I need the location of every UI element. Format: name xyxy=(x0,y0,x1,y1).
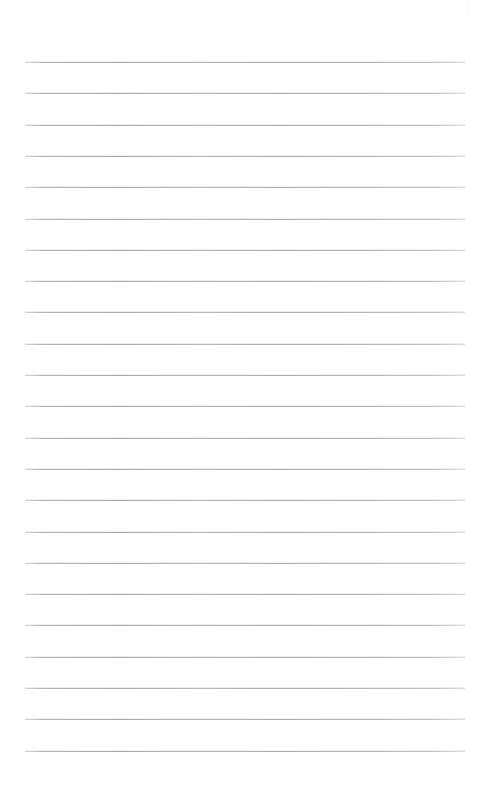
ruled-paper-page xyxy=(0,0,477,790)
writing-area[interactable] xyxy=(0,0,477,790)
